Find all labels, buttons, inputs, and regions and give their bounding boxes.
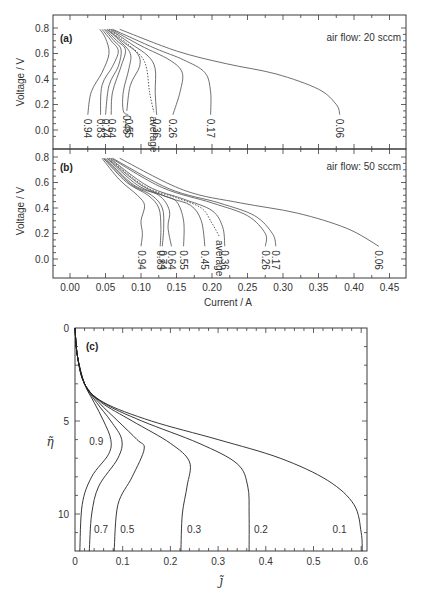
- curve-label: 0.26: [167, 119, 178, 139]
- curve-label: 0.26: [260, 250, 271, 270]
- y-tick-label: 0.4: [35, 74, 49, 85]
- y-tick-label: 0.8: [35, 23, 49, 34]
- x-tick-label: 0.45: [380, 282, 400, 293]
- curve-0.1: [75, 328, 362, 551]
- curve-label: 0.1: [333, 524, 347, 535]
- x-tick-label: 0.4: [259, 556, 273, 567]
- curve-0.36: [110, 158, 225, 246]
- y-tick-label: 5: [63, 416, 69, 427]
- curve-label: 0.45: [121, 115, 132, 135]
- y-tick-label: 0.0: [35, 254, 49, 265]
- panel-b-label: (b): [60, 162, 73, 173]
- y-tick-label: 0.0: [35, 125, 49, 136]
- x-axis-label-current: Current / A: [204, 297, 252, 308]
- curve-0.26: [111, 158, 266, 246]
- curve-label: 0.06: [373, 250, 384, 270]
- x-tick-label: 0.30: [273, 282, 293, 293]
- curve-average: [109, 29, 154, 112]
- curve-label: 0.45: [199, 250, 210, 270]
- x-tick-label: 0.6: [354, 556, 368, 567]
- x-tick-label: 0.10: [131, 282, 151, 293]
- curve-label: 0.17: [205, 119, 216, 139]
- curve-label: 0.5: [120, 524, 134, 535]
- panel-a-y-axis-label: Voltage / V: [15, 57, 26, 106]
- curve-0.36: [110, 29, 157, 114]
- curve-0.17: [113, 158, 276, 246]
- curve-label: 0.9: [89, 436, 103, 447]
- x-tick-label: 0: [72, 556, 78, 567]
- x-tick-label: 0.2: [163, 556, 177, 567]
- x-tick-label: 0.25: [238, 282, 258, 293]
- x-tick-label: 0.40: [344, 282, 364, 293]
- y-tick-label: 0.6: [35, 48, 49, 59]
- y-tick-label: 0.6: [35, 177, 49, 188]
- panel-c-y-axis-label-eta: η̃: [46, 435, 54, 449]
- x-tick-label: 0.35: [309, 282, 329, 293]
- y-tick-label: 10: [58, 509, 70, 520]
- x-tick-label: 0.15: [167, 282, 187, 293]
- panel-c-label: (c): [86, 341, 98, 352]
- curve-label: 0.06: [334, 119, 345, 139]
- y-tick-label: 0: [63, 323, 69, 334]
- curve-0.45: [108, 29, 141, 111]
- y-tick-label: 0.2: [35, 99, 49, 110]
- x-tick-label: 0.3: [211, 556, 225, 567]
- panel-c-x-axis-label-j: j̃: [217, 574, 224, 588]
- y-tick-label: 0.4: [35, 203, 49, 214]
- curve-label: 0.17: [270, 250, 281, 270]
- curve-0.94: [88, 29, 109, 114]
- panel-a-airflow-note: air flow: 20 sccm: [327, 32, 401, 43]
- curve-label: 0.64: [166, 250, 177, 270]
- curve-label: 0.2: [254, 524, 268, 535]
- curve-0.26: [111, 29, 183, 114]
- x-tick-label: 0.05: [96, 282, 116, 293]
- x-tick-label: 0.1: [116, 556, 130, 567]
- y-tick-label: 0.2: [35, 228, 49, 239]
- figure: 0.00.20.40.60.80.940.830.740.640.550.45a…: [0, 0, 422, 600]
- x-tick-label: 0.00: [60, 282, 80, 293]
- curve-label: 0.36: [151, 119, 162, 139]
- curve-label: 0.64: [106, 119, 117, 139]
- curve-label: 0.7: [94, 524, 108, 535]
- panel-b-y-axis-label: Voltage / V: [15, 186, 26, 235]
- x-tick-label: 0.5: [307, 556, 321, 567]
- panel-a-label: (a): [60, 33, 72, 44]
- curve-label: 0.3: [187, 524, 201, 535]
- plot-frame-c: [75, 328, 367, 551]
- curve-0.5: [75, 328, 144, 551]
- panel-c-model: 00.10.20.30.40.50.605100.90.70.50.30.20.…: [58, 323, 369, 567]
- curve-0.06: [120, 29, 340, 114]
- curve-label: 0.55: [178, 250, 189, 270]
- curve-label: 0.94: [82, 119, 93, 139]
- panel-b-airflow-note: air flow: 50 sccm: [327, 161, 401, 172]
- curve-label: 0.36: [219, 250, 230, 270]
- curve-label: 0.94: [136, 250, 147, 270]
- y-tick-label: 0.8: [35, 152, 49, 163]
- x-tick-label: 0.20: [202, 282, 222, 293]
